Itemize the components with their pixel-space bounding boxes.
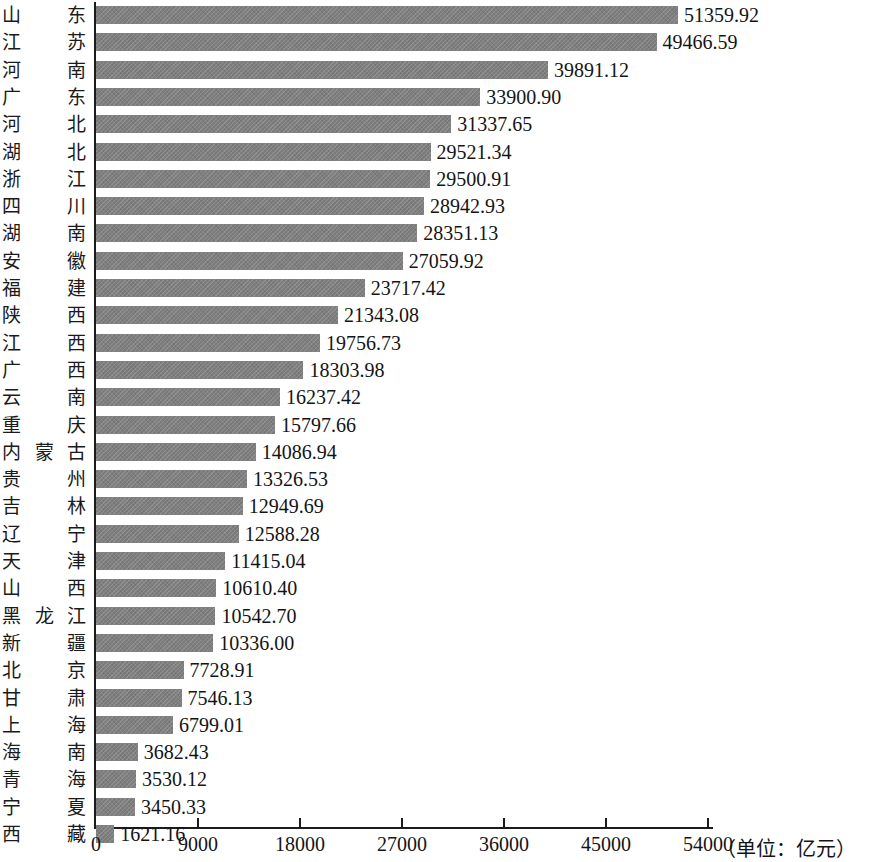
- bar: [96, 552, 225, 570]
- bar: [96, 306, 338, 324]
- bar-row: 重 庆 15797.66: [0, 412, 878, 439]
- bar-row: 吉 林 12949.69: [0, 493, 878, 520]
- bar-value-label: 29500.91: [436, 166, 511, 193]
- bar-value-label: 3682.43: [144, 739, 209, 766]
- x-axis-tick: [707, 818, 709, 828]
- x-axis-tick-label: 27000: [377, 833, 427, 856]
- bar: [96, 224, 417, 242]
- category-label: 浙 江: [2, 166, 86, 193]
- bar: [96, 115, 451, 133]
- bar-value-label: 10542.70: [221, 603, 296, 630]
- category-label: 新 疆: [2, 630, 86, 657]
- bar: [96, 525, 239, 543]
- category-label: 重 庆: [2, 412, 86, 439]
- bar: [96, 607, 215, 625]
- bar-row: 湖 北 29521.34: [0, 139, 878, 166]
- bar-row: 上 海 6799.01: [0, 712, 878, 739]
- bar-value-label: 16237.42: [286, 384, 361, 411]
- bar-value-label: 1621.16: [120, 821, 185, 848]
- bar-row: 四 川 28942.93: [0, 193, 878, 220]
- bar: [96, 416, 275, 434]
- bar-value-label: 7546.13: [188, 685, 253, 712]
- category-label: 天 津: [2, 548, 86, 575]
- bar: [96, 279, 365, 297]
- bar-value-label: 28942.93: [430, 193, 505, 220]
- bar: [96, 497, 243, 515]
- category-label: 安 徽: [2, 248, 86, 275]
- category-label: 云 南: [2, 384, 86, 411]
- x-axis-tick: [605, 818, 607, 828]
- bar-value-label: 12949.69: [249, 493, 324, 520]
- bar: [96, 661, 184, 679]
- category-label: 内 蒙 古: [2, 439, 86, 466]
- category-label: 黑 龙 江: [2, 603, 86, 630]
- bar-value-label: 3530.12: [142, 766, 207, 793]
- bar: [96, 61, 548, 79]
- bar-value-label: 15797.66: [281, 412, 356, 439]
- bar-value-label: 18303.98: [309, 357, 384, 384]
- bar-row: 山 东 51359.92: [0, 2, 878, 29]
- bar: [96, 689, 182, 707]
- category-label: 山 西: [2, 575, 86, 602]
- bar: [96, 388, 280, 406]
- category-label: 宁 夏: [2, 794, 86, 821]
- bar-value-label: 21343.08: [344, 302, 419, 329]
- category-label: 河 南: [2, 57, 86, 84]
- bar-row: 广 东 33900.90: [0, 84, 878, 111]
- category-label: 北 京: [2, 657, 86, 684]
- category-label: 甘 肃: [2, 685, 86, 712]
- bar: [96, 743, 138, 761]
- category-label: 四 川: [2, 193, 86, 220]
- x-axis-tick: [197, 818, 199, 828]
- bar-row: 湖 南 28351.13: [0, 220, 878, 247]
- category-label: 上 海: [2, 712, 86, 739]
- bar: [96, 88, 480, 106]
- x-axis-tick: [401, 818, 403, 828]
- bar-value-label: 49466.59: [663, 29, 738, 56]
- bar: [96, 361, 303, 379]
- bar-value-label: 12588.28: [245, 521, 320, 548]
- category-label: 江 西: [2, 330, 86, 357]
- bar: [96, 6, 678, 24]
- category-label: 西 藏: [2, 821, 86, 848]
- bar-value-label: 29521.34: [437, 139, 512, 166]
- category-label: 吉 林: [2, 493, 86, 520]
- bar-row: 贵 州 13326.53: [0, 466, 878, 493]
- category-label: 福 建: [2, 275, 86, 302]
- bar: [96, 716, 173, 734]
- bar-value-label: 28351.13: [423, 220, 498, 247]
- category-label: 广 东: [2, 84, 86, 111]
- bar-row: 江 西 19756.73: [0, 330, 878, 357]
- bar: [96, 770, 136, 788]
- category-label: 江 苏: [2, 29, 86, 56]
- bar: [96, 634, 213, 652]
- x-axis-tick-label: 9000: [178, 833, 218, 856]
- bar-value-label: 3450.33: [141, 794, 206, 821]
- bar-row: 甘 肃 7546.13: [0, 685, 878, 712]
- bar-row: 河 南 39891.12: [0, 57, 878, 84]
- bar-value-label: 14086.94: [262, 439, 337, 466]
- bar-row: 新 疆 10336.00: [0, 630, 878, 657]
- bar: [96, 334, 320, 352]
- bar-value-label: 10336.00: [219, 630, 294, 657]
- bar-row: 陕 西 21343.08: [0, 302, 878, 329]
- x-axis-tick-label: 0: [91, 833, 101, 856]
- bar-row: 河 北 31337.65: [0, 111, 878, 138]
- bar-value-label: 6799.01: [179, 712, 244, 739]
- bar-row: 内 蒙 古 14086.94: [0, 439, 878, 466]
- category-label: 湖 北: [2, 139, 86, 166]
- category-label: 海 南: [2, 739, 86, 766]
- x-axis-tick: [503, 818, 505, 828]
- category-label: 河 北: [2, 111, 86, 138]
- x-axis-tick-label: 36000: [479, 833, 529, 856]
- bar-row: 云 南 16237.42: [0, 384, 878, 411]
- bar-value-label: 51359.92: [684, 2, 759, 29]
- bar-value-label: 11415.04: [231, 548, 305, 575]
- bar: [96, 443, 256, 461]
- bar-row: 福 建 23717.42: [0, 275, 878, 302]
- bar-value-label: 39891.12: [554, 57, 629, 84]
- bar-row: 安 徽 27059.92: [0, 248, 878, 275]
- category-label: 辽 宁: [2, 521, 86, 548]
- bar: [96, 170, 430, 188]
- bar: [96, 470, 247, 488]
